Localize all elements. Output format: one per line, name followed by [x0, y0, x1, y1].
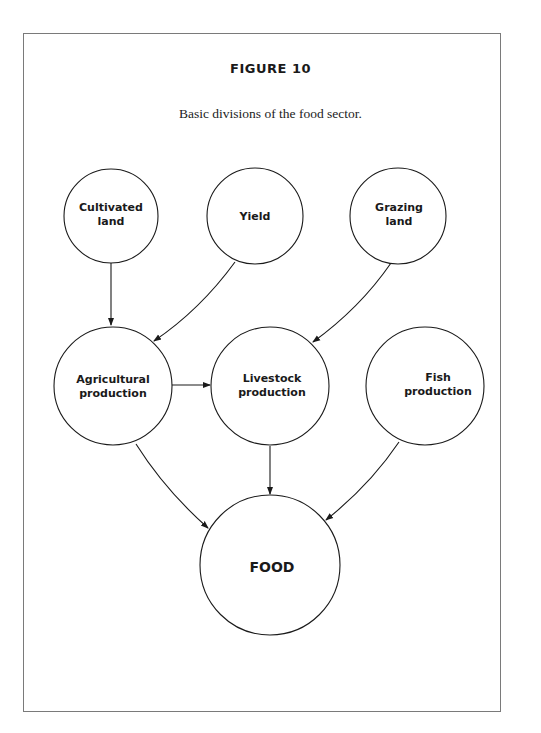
edge-fish-to-food	[326, 442, 399, 520]
label-livestock-line2: production	[238, 386, 306, 399]
label-fish-line1: Fish	[425, 371, 451, 384]
label-cultivated-line1: Cultivated	[79, 201, 143, 214]
label-agricultural-line2: production	[79, 387, 147, 400]
label-grazing-line1: Grazing	[375, 201, 423, 214]
node-agricultural-production	[54, 327, 172, 445]
edge-grazing-to-livestock	[313, 263, 391, 342]
label-food: FOOD	[250, 559, 295, 575]
edge-agricultural-to-food	[136, 444, 208, 528]
label-fish-line2: production	[404, 385, 472, 398]
label-cultivated-line2: land	[98, 215, 125, 228]
label-agricultural-line1: Agricultural	[76, 373, 149, 386]
diagram: Cultivated land Yield Grazing land Agric…	[0, 0, 541, 733]
label-livestock-line1: Livestock	[243, 372, 302, 385]
label-grazing-line2: land	[386, 215, 413, 228]
label-yield: Yield	[239, 210, 271, 223]
edge-yield-to-agricultural	[154, 262, 235, 341]
